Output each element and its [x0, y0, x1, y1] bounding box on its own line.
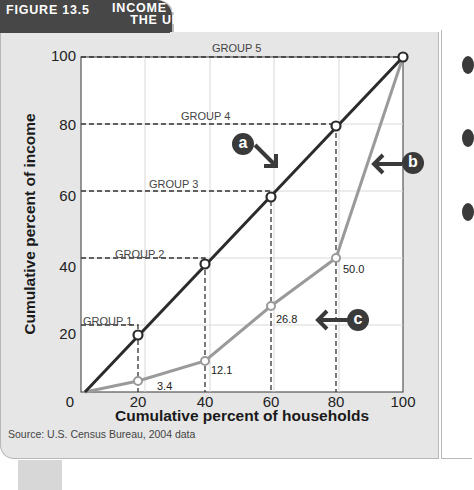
title-line-2: THE UNITED STATES	[110, 14, 290, 26]
callout-a: a	[232, 133, 254, 155]
group-label-5: GROUP 5	[212, 42, 261, 54]
group-label-1: GROUP 1	[83, 315, 132, 327]
y-axis-label: Cumulative percent of income	[21, 94, 39, 354]
y-tick-40: 40	[36, 258, 76, 275]
callout-b: b	[402, 152, 424, 174]
group-label-2: GROUP 2	[115, 248, 164, 260]
y-tick-20: 20	[36, 325, 76, 342]
group-label-3: GROUP 3	[149, 178, 198, 190]
y-tick-60: 60	[36, 187, 76, 204]
source-note: Source: U.S. Census Bureau, 2004 data	[8, 428, 195, 440]
data-label-3-4: 3.4	[157, 380, 172, 392]
data-label-50-0: 50.0	[343, 263, 364, 275]
group-label-4: GROUP 4	[181, 110, 230, 122]
y-tick-100: 100	[36, 47, 76, 64]
callout-c: c	[347, 309, 369, 331]
figure-title: INCOME DISTRIBUTION IN THE UNITED STATES	[110, 2, 290, 26]
data-label-26-8: 26.8	[276, 313, 297, 325]
y-tick-80: 80	[36, 116, 76, 133]
x-axis-label: Cumulative percent of households	[81, 407, 403, 425]
data-label-12-1: 12.1	[211, 364, 232, 376]
